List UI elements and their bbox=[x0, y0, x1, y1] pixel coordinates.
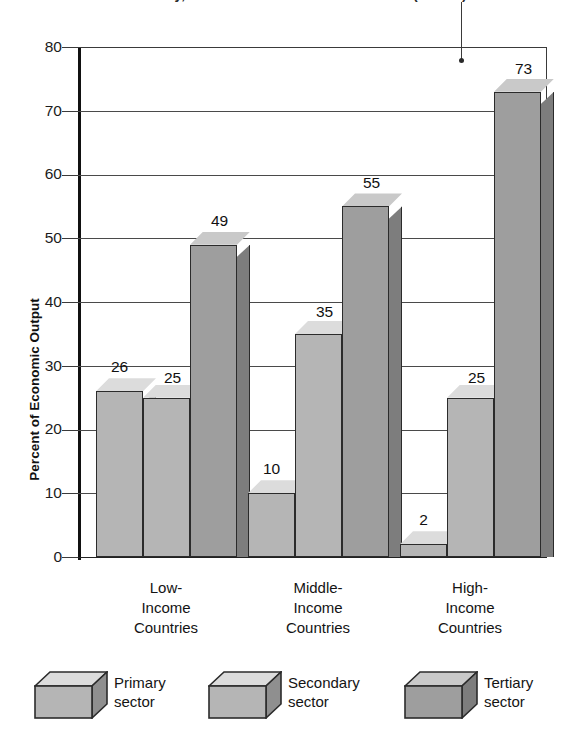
bar-top-face bbox=[342, 193, 402, 206]
plot-area: 26 25 49 10 35 55 bbox=[78, 47, 547, 557]
y-tick-mark-10 bbox=[62, 493, 78, 494]
bar-front-face bbox=[342, 206, 389, 557]
value-label-low-secondary: 25 bbox=[145, 369, 200, 387]
bar-top-face bbox=[494, 79, 554, 92]
x-category-line3: Countries bbox=[91, 618, 241, 638]
y-tick-mark-40 bbox=[62, 302, 78, 303]
bars-layer: 26 25 49 10 35 55 bbox=[78, 47, 547, 557]
x-category-line3: Countries bbox=[243, 618, 393, 638]
value-label-middle-tertiary: 55 bbox=[344, 174, 399, 192]
legend-label-primary: Primary sector bbox=[114, 673, 166, 711]
x-category-line1: Middle- bbox=[243, 578, 393, 598]
bar-middle-tertiary[interactable] bbox=[342, 206, 389, 557]
legend-label-line1: Secondary bbox=[288, 673, 360, 692]
legend-label-tertiary: Tertiary sector bbox=[484, 673, 533, 711]
x-category-middle-income: Middle- Income Countries bbox=[243, 578, 393, 638]
x-category-low-income: Low- Income Countries bbox=[91, 578, 241, 638]
x-category-line1: High- bbox=[395, 578, 545, 598]
legend-label-line2: sector bbox=[288, 692, 360, 711]
figure-title-text: Economy, the Three Sectors of Production… bbox=[118, 0, 467, 2]
legend-label-line2: sector bbox=[484, 692, 533, 711]
chart-page: Economy, the Three Sectors of Production… bbox=[0, 0, 566, 739]
value-label-low-tertiary: 49 bbox=[192, 212, 247, 230]
bar-high-secondary[interactable] bbox=[447, 398, 494, 557]
y-tick-label-80: 80 bbox=[20, 38, 62, 56]
bar-side-face bbox=[540, 92, 554, 557]
value-label-high-primary: 2 bbox=[396, 511, 451, 529]
x-category-high-income: High- Income Countries bbox=[395, 578, 545, 638]
value-label-high-tertiary: 73 bbox=[496, 60, 551, 78]
y-tick-mark-50 bbox=[62, 238, 78, 239]
y-tick-mark-70 bbox=[62, 111, 78, 112]
bar-high-primary[interactable] bbox=[400, 544, 447, 557]
value-label-middle-secondary: 35 bbox=[297, 303, 352, 321]
bar-low-tertiary[interactable] bbox=[190, 245, 237, 557]
cube-icon bbox=[404, 671, 478, 719]
x-axis-category-labels: Low- Income Countries Middle- Income Cou… bbox=[78, 578, 547, 640]
legend-label-line1: Primary bbox=[114, 673, 166, 692]
x-category-line3: Countries bbox=[395, 618, 545, 638]
cube-icon bbox=[208, 671, 282, 719]
legend-label-line2: sector bbox=[114, 692, 166, 711]
bar-front-face bbox=[96, 391, 143, 557]
x-category-line2: Income bbox=[243, 598, 393, 618]
y-tick-mark-0 bbox=[62, 557, 78, 558]
bar-low-primary[interactable] bbox=[96, 391, 143, 557]
bar-middle-secondary[interactable] bbox=[295, 334, 342, 557]
legend-item-primary[interactable]: Primary sector bbox=[34, 663, 204, 725]
y-tick-mark-20 bbox=[62, 430, 78, 431]
bar-top-face bbox=[190, 232, 250, 245]
x-category-line2: Income bbox=[91, 598, 241, 618]
bar-front-face bbox=[295, 334, 342, 557]
value-label-low-primary: 26 bbox=[92, 358, 147, 376]
bar-front-face bbox=[447, 398, 494, 557]
y-tick-mark-60 bbox=[62, 175, 78, 176]
bar-front-face bbox=[400, 544, 447, 557]
y-tick-label-70: 70 bbox=[20, 102, 62, 120]
bar-front-face bbox=[248, 493, 295, 557]
x-category-line1: Low- bbox=[91, 578, 241, 598]
bar-front-face bbox=[190, 245, 237, 557]
bar-side-face bbox=[388, 206, 402, 557]
bar-middle-primary[interactable] bbox=[248, 493, 295, 557]
y-axis-title: Percent of Economic Output bbox=[27, 260, 42, 520]
bar-front-face bbox=[143, 398, 190, 557]
y-tick-label-0: 0 bbox=[20, 548, 62, 566]
legend-label-secondary: Secondary sector bbox=[288, 673, 360, 711]
y-axis-title-wrapper: Percent of Economic Output bbox=[14, 150, 34, 410]
cube-icon bbox=[34, 671, 108, 719]
bar-low-secondary[interactable] bbox=[143, 398, 190, 557]
value-label-middle-primary: 10 bbox=[244, 460, 299, 478]
x-category-line2: Income bbox=[395, 598, 545, 618]
y-tick-mark-30 bbox=[62, 366, 78, 367]
legend-item-secondary[interactable]: Secondary sector bbox=[208, 663, 398, 725]
legend-label-line1: Tertiary bbox=[484, 673, 533, 692]
gridline-0 bbox=[78, 557, 547, 558]
bar-high-tertiary[interactable] bbox=[494, 92, 541, 557]
legend-item-tertiary[interactable]: Tertiary sector bbox=[404, 663, 566, 725]
value-label-high-secondary: 25 bbox=[449, 369, 504, 387]
y-tick-mark-80 bbox=[62, 47, 78, 48]
chart-legend: Primary sector Secondary sector Tert bbox=[20, 663, 546, 725]
bar-front-face bbox=[494, 92, 541, 557]
figure-title-cropped: Economy, the Three Sectors of Production… bbox=[0, 0, 566, 7]
